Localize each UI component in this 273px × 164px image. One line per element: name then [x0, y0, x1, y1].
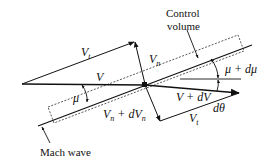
v-label: V: [96, 70, 105, 84]
mach-wave-label: Mach wave: [40, 146, 91, 158]
mach-wave-pointer: [42, 127, 50, 143]
vn-dvn-vector: [145, 85, 160, 121]
mu-dmu-label: μ + dμ: [224, 62, 257, 76]
vt-top-label: Vt: [81, 45, 91, 61]
mu-dmu-angle-arc: [211, 59, 218, 78]
mu-label: μ: [72, 91, 79, 105]
control-volume-pointer: [187, 30, 198, 58]
dtheta-angle-arc: [217, 80, 218, 91]
vt-top-vector: [22, 42, 134, 84]
vn-label: Vn: [149, 52, 160, 68]
vt-bottom-label: Vt: [189, 111, 199, 127]
v-dv-label: V + dV: [176, 90, 212, 104]
vn-vector: [135, 42, 145, 84]
control-volume-label-line2: volume: [167, 20, 200, 32]
v-upstream-vector: [22, 84, 145, 85]
velocity-diagram: Vt Vn V μ μ + dμ V + dV dθ Vn + dVn Vt C…: [0, 0, 273, 164]
control-volume-label-line1: Control: [166, 7, 200, 19]
dtheta-label: dθ: [213, 101, 225, 115]
vn-dvn-label: Vn + dVn: [103, 107, 146, 123]
intersection-node: [142, 82, 147, 87]
